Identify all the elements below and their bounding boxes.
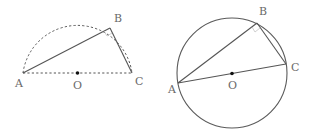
semicircle-arc	[23, 25, 132, 73]
segment-ab	[178, 23, 257, 83]
label-b: B	[259, 5, 267, 18]
right-angle-mark	[252, 27, 260, 32]
label-a: A	[167, 83, 177, 96]
center-point-o	[230, 72, 234, 76]
semicircle-figure: A O C B	[14, 12, 143, 92]
label-a: A	[14, 77, 24, 90]
segment-bc	[257, 23, 286, 64]
label-b: B	[114, 12, 122, 25]
label-c: C	[291, 61, 299, 74]
diagram-canvas: A O C B A O C B	[0, 0, 313, 136]
label-o: O	[228, 79, 237, 92]
circle-figure: A O C B	[167, 5, 299, 128]
label-c: C	[135, 75, 143, 88]
label-o: O	[73, 79, 82, 92]
segment-ab	[23, 28, 110, 73]
right-angle-mark	[104, 31, 112, 36]
segment-bc	[110, 28, 132, 73]
center-point-o	[76, 71, 80, 75]
